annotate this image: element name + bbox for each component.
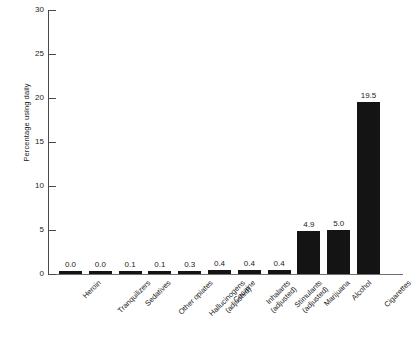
bar-rect [148, 271, 171, 274]
bar-rect [297, 231, 320, 274]
bar-rect [59, 271, 82, 274]
bar-other-opiates[interactable]: 0.1 [148, 10, 171, 275]
y-tick-label: 15 [22, 136, 44, 147]
y-tick-label: 10 [22, 180, 44, 191]
bar-rect [357, 102, 380, 274]
bar-alcohol[interactable]: 5.0 [327, 10, 350, 275]
bar-value-label: 5.0 [320, 219, 357, 228]
bar-heroin[interactable]: 0.0 [59, 10, 82, 275]
x-label-inhalants-adjusted: Inhalants(adjusted) [263, 279, 299, 315]
x-label-heroin: Heroin [81, 279, 103, 301]
bar-stimulants-adjusted[interactable]: 0.4 [268, 10, 291, 275]
x-label-line-1: Heroin [80, 278, 102, 300]
bar-rect [178, 271, 201, 274]
bar-sedatives[interactable]: 0.1 [119, 10, 142, 275]
y-tick-label: 30 [22, 4, 44, 15]
bar-series: 0.00.00.10.10.30.40.40.44.95.019.5 [49, 10, 403, 275]
bar-rect [268, 270, 291, 274]
bar-value-label: 0.4 [261, 259, 298, 268]
bar-rect [119, 271, 142, 274]
bar-cocaine[interactable]: 0.4 [208, 10, 231, 275]
y-tick-label: 5 [22, 224, 44, 235]
bar-inhalants-adjusted[interactable]: 0.4 [238, 10, 261, 275]
x-label-line-1: Cigarettes [382, 278, 413, 309]
bar-hallucinogens-adjusted[interactable]: 0.3 [178, 10, 201, 275]
bar-value-label: 19.5 [350, 91, 387, 100]
bar-rect [89, 271, 112, 274]
bar-tranquilizers[interactable]: 0.0 [89, 10, 112, 275]
y-tick-label: 20 [22, 92, 44, 103]
bar-rect [327, 230, 350, 274]
y-axis-title: Percentage using daily [22, 43, 31, 203]
bar-marijuana[interactable]: 4.9 [297, 10, 320, 275]
y-tick-label: 25 [22, 48, 44, 59]
x-label-alcohol: Alcohol [350, 279, 373, 302]
bar-rect [208, 270, 231, 274]
bar-cigarettes[interactable]: 19.5 [357, 10, 380, 275]
x-label-cigarettes: Cigarettes [383, 279, 413, 309]
bar-rect [238, 270, 261, 274]
plot-area: 051015202530 0.00.00.10.10.30.40.40.44.9… [48, 10, 403, 275]
x-label-line-1: Alcohol [349, 278, 373, 302]
y-tick-label: 0 [22, 268, 44, 279]
